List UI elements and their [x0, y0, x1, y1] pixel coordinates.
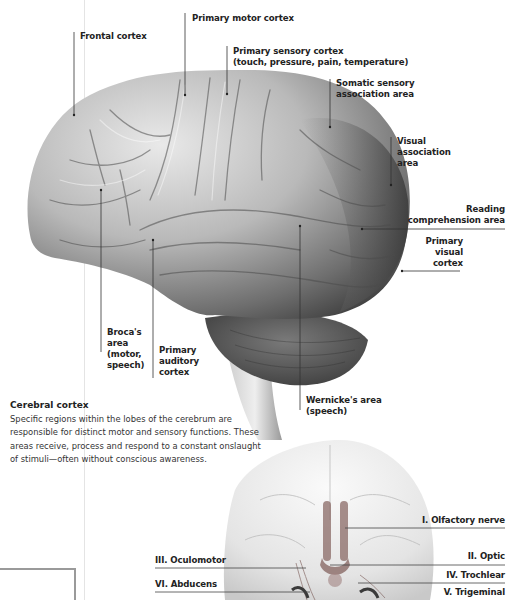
label-olfactory-nerve: I. Olfactory nerve — [422, 515, 505, 526]
label-trigeminal: V. Trigeminal — [444, 587, 505, 598]
label-brocas-area: Broca's area (motor, speech) — [107, 327, 144, 371]
label-somatic-sensory-association-area: Somatic sensory association area — [336, 78, 414, 100]
label-primary-sensory-cortex: Primary sensory cortex (touch, pressure,… — [233, 46, 408, 68]
label-wernickes-area: Wernicke's area (speech) — [306, 395, 382, 417]
label-abducens: VI. Abducens — [155, 579, 217, 590]
label-trochlear: IV. Trochlear — [446, 570, 505, 581]
brain-artwork — [0, 0, 515, 600]
brain-diagram: Frontal cortex Primary motor cortex Prim… — [0, 0, 515, 600]
label-primary-auditory-cortex: Primary auditory cortex — [159, 345, 199, 378]
label-reading-comprehension-area: Reading comprehension area — [408, 204, 505, 226]
label-visual-association-area: Visual association area — [397, 136, 451, 169]
cerebellum — [205, 312, 368, 386]
label-optic: II. Optic — [468, 551, 505, 562]
label-oculomotor: III. Oculomotor — [155, 555, 226, 566]
caption-body: Specific regions within the lobes of the… — [10, 413, 265, 467]
caption-title: Cerebral cortex — [10, 400, 89, 410]
label-frontal-cortex: Frontal cortex — [80, 31, 147, 42]
label-primary-visual-cortex: Primary visual cortex — [426, 236, 463, 269]
label-primary-motor-cortex: Primary motor cortex — [192, 13, 294, 24]
inset-box — [0, 568, 76, 600]
